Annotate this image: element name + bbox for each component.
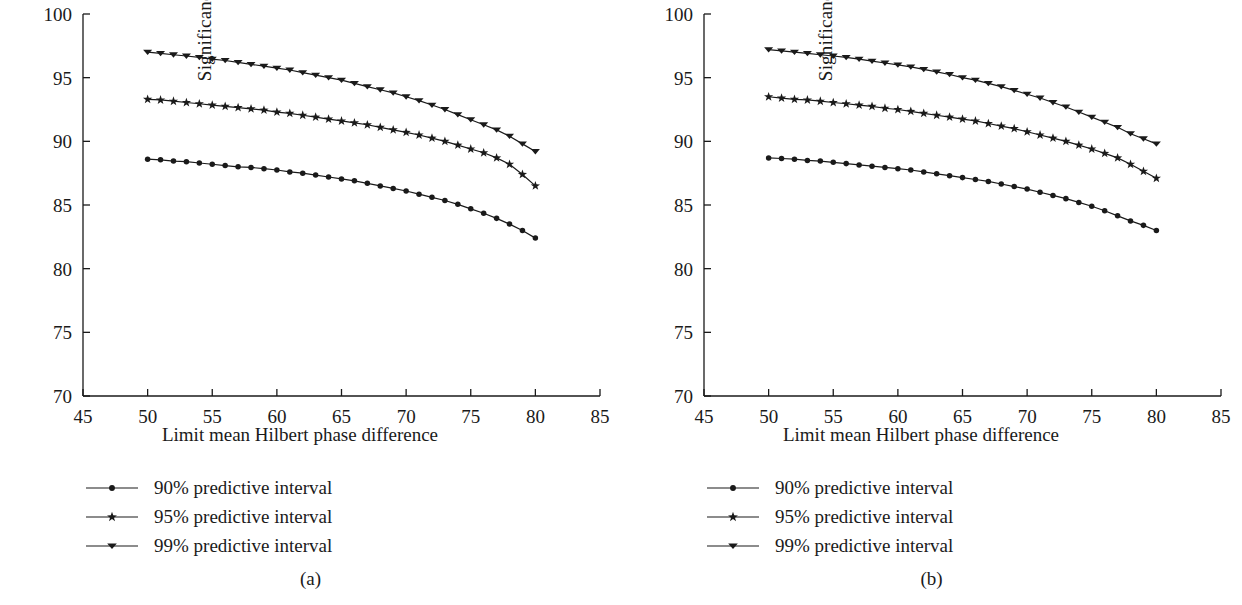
panel-caption-a: (a) — [0, 568, 621, 590]
star-marker — [84, 507, 140, 527]
legend-item: 90% predictive interval — [705, 473, 953, 502]
panel-a: Significance scp 70758085909510045505560… — [0, 0, 621, 605]
svg-text:75: 75 — [53, 322, 72, 343]
legend-item-label: 95% predictive interval — [154, 507, 332, 526]
legend-item: 99% predictive interval — [84, 531, 332, 560]
svg-text:100: 100 — [44, 4, 73, 25]
circle-marker — [705, 478, 761, 498]
panel-caption-b: (b) — [621, 568, 1242, 590]
legend-item-label: 95% predictive interval — [775, 507, 953, 526]
legend-item-label: 99% predictive interval — [775, 536, 953, 555]
legend-b: 90% predictive interval95% predictive in… — [705, 473, 953, 560]
legend-item-label: 90% predictive interval — [154, 478, 332, 497]
panel-b: Significance scn 70758085909510045505560… — [621, 0, 1242, 605]
svg-text:70: 70 — [53, 386, 72, 407]
legend-item: 95% predictive interval — [84, 502, 332, 531]
svg-text:90: 90 — [53, 131, 72, 152]
triangle-down-marker — [705, 536, 761, 556]
triangle-down-marker — [84, 536, 140, 556]
svg-text:85: 85 — [674, 195, 693, 216]
svg-text:95: 95 — [674, 68, 693, 89]
svg-text:95: 95 — [53, 68, 72, 89]
legend-item: 95% predictive interval — [705, 502, 953, 531]
svg-text:70: 70 — [674, 386, 693, 407]
star-marker — [705, 507, 761, 527]
x-axis-label-a: Limit mean Hilbert phase difference — [0, 424, 600, 446]
x-axis-label-b: Limit mean Hilbert phase difference — [621, 424, 1221, 446]
figure-two-panel-significance: Significance scp 70758085909510045505560… — [0, 0, 1242, 605]
svg-text:85: 85 — [53, 195, 72, 216]
svg-text:80: 80 — [674, 259, 693, 280]
legend-item-label: 99% predictive interval — [154, 536, 332, 555]
svg-text:75: 75 — [674, 322, 693, 343]
plot-area-b: 707580859095100455055606570758085 — [621, 0, 1242, 460]
svg-text:80: 80 — [53, 259, 72, 280]
legend-item: 99% predictive interval — [705, 531, 953, 560]
svg-text:90: 90 — [674, 131, 693, 152]
legend-item-label: 90% predictive interval — [775, 478, 953, 497]
circle-marker — [84, 478, 140, 498]
svg-text:100: 100 — [665, 4, 694, 25]
legend-item: 90% predictive interval — [84, 473, 332, 502]
legend-a: 90% predictive interval95% predictive in… — [84, 473, 332, 560]
plot-area-a: 707580859095100455055606570758085 — [0, 0, 621, 460]
